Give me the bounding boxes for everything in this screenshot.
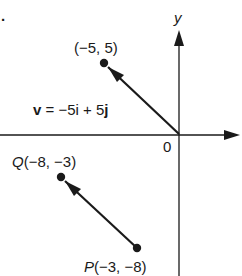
point-q-dot: [57, 173, 65, 181]
point-p-dot: [133, 244, 141, 252]
point-a-dot: [100, 59, 108, 67]
point-q-name: Q: [12, 153, 24, 170]
vector-v-eq: = −5: [41, 101, 75, 118]
y-axis-label: y: [174, 10, 182, 25]
x-axis-arrow-icon: [224, 130, 240, 140]
point-a-label: (−5, 5): [74, 40, 118, 55]
origin-label: 0: [163, 139, 171, 154]
problem-marker: .: [1, 8, 5, 23]
point-q-label: Q(−8, −3): [12, 154, 76, 169]
point-p-label: P(−3, −8): [84, 259, 147, 274]
vector-v-plus: + 5: [79, 101, 104, 118]
point-q-coords: (−8, −3): [24, 153, 77, 170]
point-p-coords: (−3, −8): [94, 258, 147, 275]
y-axis-arrow-icon: [174, 30, 184, 46]
vector-v-j: j: [104, 101, 108, 118]
vector-v-label: v = −5i + 5j: [33, 102, 109, 117]
point-p-name: P: [84, 258, 94, 275]
vector-diagram: [0, 0, 242, 276]
